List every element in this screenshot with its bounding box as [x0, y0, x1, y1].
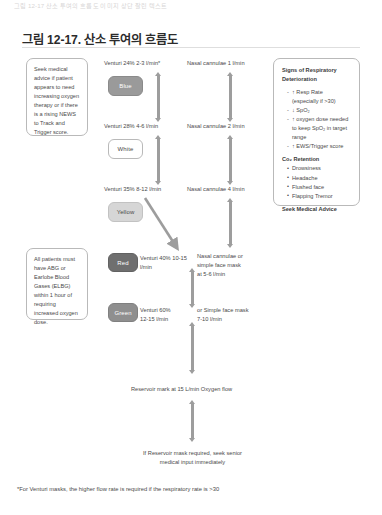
escalation-diagonal-arrow	[143, 196, 185, 258]
venturi-24-caption: Venturi 24% 2-3 l/min*	[104, 59, 176, 68]
abg-requirement-panel: All patients must have ABG or Earlobe Bl…	[26, 248, 88, 320]
figure-footnote: *For Venturi masks, the higher flow rate…	[17, 486, 219, 492]
cut-off-header-text: 그림 12-17 산소 투여의 흐름도 이미지 상단 잘린 텍스트	[14, 1, 368, 10]
seek-medical-advice-text: Seek medical advice if patient appears t…	[34, 66, 79, 135]
figure-title: 그림 12-17. 산소 투여의 흐름도	[22, 30, 178, 48]
venturi-chip-white: White	[108, 139, 143, 159]
venturi-chip-green-label: Green	[114, 310, 131, 316]
co2-list-item: Headache	[287, 174, 353, 183]
nasal-cannulae-4-caption: Nasal cannulae 4 l/min	[187, 185, 267, 194]
venturi-chip-yellow-label: Yellow	[117, 209, 135, 215]
signs-of-deterioration-panel: Signs of Respiratory Deterioration ↑ Res…	[273, 58, 360, 206]
venturi-35-caption: Venturi 35% 8-12 l/min	[104, 185, 176, 194]
signs-list-item: ↑ Resp Rate (especially if >30)	[287, 88, 353, 106]
seek-medical-advice-note: Seek Medical Advice	[282, 205, 353, 214]
co2-list-item: Drowsiness	[287, 164, 353, 173]
co2-retention-list: Drowsiness Headache Flushed face Flappin…	[282, 164, 353, 200]
co2-retention-heading: Co₂ Retention	[282, 155, 353, 164]
signs-list-item: ↑ oxygen dose needed to keep SpO₂ in tar…	[287, 115, 353, 142]
venturi-60-caption: Venturi 60% 12-15 l/min	[140, 306, 192, 324]
reservoir-caption: Reservoir mark at 15 L/min Oxygen flow	[131, 385, 311, 394]
venturi-chip-red: Red	[108, 253, 138, 272]
nasal-cannulae-1-caption: Nasal cannulae 1 l/min	[187, 59, 267, 68]
co2-list-item: Flushed face	[287, 183, 353, 192]
simple-face-mask-caption: or Simple face mask 7-10 l/min	[197, 306, 273, 324]
venturi-chip-yellow: Yellow	[108, 202, 143, 222]
venturi-chip-green: Green	[108, 303, 138, 322]
venturi-chip-blue: Blue	[108, 76, 143, 96]
venturi-28-caption: Venturi 28% 4-6 l/min	[104, 122, 176, 131]
venturi-chip-white-label: White	[118, 146, 134, 152]
signs-list-item: ↓ SpO₂	[287, 106, 353, 115]
co2-list-item: Flapping Tremor	[287, 192, 353, 201]
seek-medical-advice-panel: Seek medical advice if patient appears t…	[26, 58, 88, 136]
title-divider	[22, 47, 360, 48]
figure-page: 그림 12-17 산소 투여의 흐름도 이미지 상단 잘린 텍스트 그림 12-…	[0, 0, 382, 515]
signs-panel-heading: Signs of Respiratory Deterioration	[282, 66, 353, 84]
venturi-chip-blue-label: Blue	[119, 83, 131, 89]
venturi-chip-red-label: Red	[117, 260, 128, 266]
signs-list-item: ↑ EWS/Trigger score	[287, 142, 353, 151]
nasal-cannulae-2-caption: Nasal cannulae 2 l/min	[187, 122, 267, 131]
signs-list: ↑ Resp Rate (especially if >30) ↓ SpO₂ ↑…	[282, 88, 353, 151]
abg-requirement-text: All patients must have ABG or Earlobe Bl…	[34, 256, 78, 325]
escalate-caption: If Reservoir mask required, seek senior …	[120, 449, 265, 467]
nasal-or-face-mask-caption: Nasal cannulae or simple face mask at 5-…	[197, 252, 273, 279]
